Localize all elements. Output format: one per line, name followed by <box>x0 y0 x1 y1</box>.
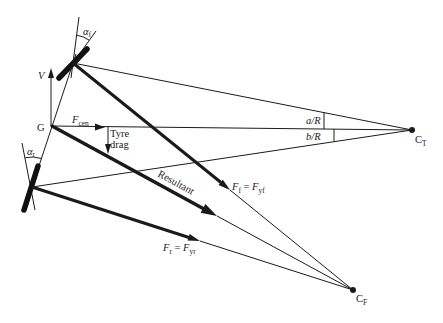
front-force-line-to-cf <box>230 190 353 290</box>
rear-force-equals: = <box>172 242 183 253</box>
front-radius-to-ct <box>73 63 412 130</box>
tyre-drag-label-line2: drag <box>110 139 129 150</box>
force-centre-symbol: C <box>356 293 363 304</box>
front-force-equals: = <box>241 181 252 192</box>
rear-force-arrowhead-icon <box>188 234 201 241</box>
front-force-label: Ff = Fyf <box>231 181 265 195</box>
vehicle-cornering-diagram: V G Fcen Tyre drag αf αr a/R b/R CT CF R… <box>0 0 443 323</box>
force-centre-label: CF <box>356 293 367 307</box>
turn-centre-subscript: T <box>422 139 427 148</box>
front-force-arrow-shaft <box>73 63 221 183</box>
turn-centre-label: CT <box>415 134 427 148</box>
alpha-r-subscript: r <box>33 150 36 159</box>
resultant-arrowhead-icon <box>201 204 217 216</box>
cg-label: G <box>37 122 45 133</box>
velocity-label: V <box>38 70 46 81</box>
front-force-rhs-sub: yf <box>259 186 266 195</box>
f-cen-label: Fcen <box>71 114 89 128</box>
rear-force-label: Fr = Fyr <box>162 242 196 256</box>
rear-force-arrow-shaft <box>32 187 189 238</box>
cg-radius-to-ct <box>52 126 412 130</box>
rear-radius-to-ct <box>32 130 412 187</box>
rear-force-rhs-sub: yr <box>190 247 197 256</box>
a-over-r-label: a/R <box>306 115 321 126</box>
turn-centre-symbol: C <box>415 134 422 145</box>
force-centre-subscript: F <box>363 298 367 307</box>
b-over-r-label: b/R <box>306 131 321 142</box>
cg-point <box>50 124 53 127</box>
tyre-drag-label-line1: Tyre <box>110 128 129 139</box>
f-cen-arrowhead-icon <box>95 124 105 131</box>
front-velocity-direction-line <box>71 17 79 78</box>
velocity-arrowhead-icon <box>48 68 54 78</box>
turn-centre-point <box>409 127 415 133</box>
f-cen-subscript: cen <box>78 119 89 128</box>
